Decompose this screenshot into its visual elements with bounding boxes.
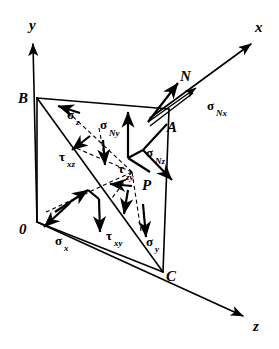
label-sigma-Nx: σ Nx: [207, 98, 227, 118]
label-sigma-Nx-sub: Nx: [215, 108, 227, 118]
label-sigma-x-sub: x: [63, 243, 69, 253]
arrow-sigma-Nx: [148, 88, 196, 122]
arrow-tau-xz: [72, 136, 90, 150]
label-origin: 0: [19, 221, 27, 237]
label-x-axis: x: [254, 19, 263, 35]
label-sigma-z: σ z: [67, 107, 80, 127]
label-point-a: A: [166, 119, 177, 135]
label-sigma-x-symbol: σ: [55, 233, 62, 248]
label-sigma-y-symbol: σ: [146, 234, 153, 249]
label-tau-xz: τ xz: [59, 149, 76, 169]
arrow-sigma-x-negative: [44, 203, 70, 227]
stress-tetrahedron-figure: y x z B 0 A C P N σ Nx σ z σ: [0, 0, 279, 349]
label-tau-xy-sub: xy: [113, 238, 124, 248]
label-normal-N: N: [179, 68, 192, 84]
arrow-sigma-Ny-base: [128, 158, 150, 172]
label-sigma-z-symbol: σ: [67, 107, 74, 122]
arrow-middle-down: [103, 140, 105, 165]
label-point-c: C: [166, 268, 177, 284]
label-tau-xy: τ xy: [106, 228, 124, 248]
label-sigma-y-sub: y: [154, 244, 160, 254]
label-sigma-Ny: σ Ny: [100, 117, 120, 138]
arrow-tau-xy: [99, 199, 100, 232]
label-tau-zy: τ zy: [118, 161, 135, 182]
arrow-tau-zy: [110, 184, 132, 186]
label-point-p: P: [142, 177, 152, 193]
label-sigma-Nz-symbol: σ: [146, 145, 153, 160]
label-sigma-Nz: σ Nz: [146, 145, 165, 166]
label-point-b: B: [17, 90, 28, 106]
label-tau-zy-sub: zy: [125, 172, 135, 182]
label-z-axis: z: [252, 318, 259, 334]
label-sigma-Nx-symbol: σ: [207, 98, 214, 113]
label-sigma-Ny-sub: Ny: [108, 128, 120, 138]
label-sigma-z-sub: z: [75, 117, 80, 127]
z-axis-line: [37, 222, 243, 316]
x-axis-line: [150, 44, 251, 118]
label-tau-xz-symbol: τ: [59, 149, 65, 164]
label-y-axis: y: [27, 17, 36, 33]
label-sigma-Ny-symbol: σ: [100, 117, 107, 132]
edge-b-a: [37, 98, 169, 109]
label-tau-xy-symbol: τ: [106, 228, 112, 243]
figure-canvas: y x z B 0 A C P N σ Nx σ z σ: [0, 0, 279, 349]
label-group: y x z B 0 A C P N σ Nx σ z σ: [17, 17, 263, 334]
label-tau-zy-symbol: τ: [118, 161, 124, 176]
label-tau-xz-sub: xz: [66, 159, 76, 169]
label-sigma-Nz-sub: Nz: [154, 156, 165, 166]
arrow-sigma-x-riser: [88, 190, 99, 199]
arrow-sigma-Nz-base: [128, 150, 143, 158]
arrow-p-down: [124, 190, 128, 214]
arrow-sigma-y: [143, 204, 146, 237]
